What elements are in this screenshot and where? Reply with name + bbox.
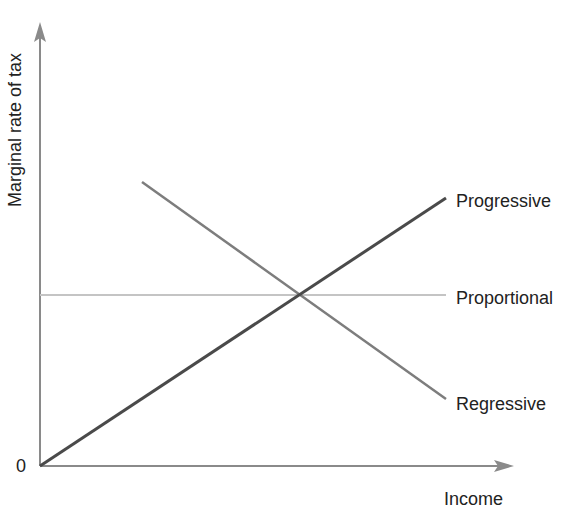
progressive-line [40, 198, 446, 466]
x-axis-label: Income [444, 490, 503, 508]
proportional-label: Proportional [456, 289, 553, 307]
progressive-label: Progressive [456, 192, 551, 210]
y-axis-label: Marginal rate of tax [6, 53, 24, 207]
origin-label: 0 [16, 457, 26, 475]
tax-rate-diagram [0, 0, 575, 516]
regressive-line [142, 182, 446, 399]
regressive-label: Regressive [456, 395, 546, 413]
